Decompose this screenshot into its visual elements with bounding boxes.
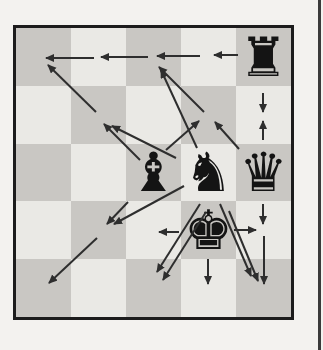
black-knight-piece: ♞ <box>181 144 236 202</box>
black-bishop-piece: ♝ <box>126 144 181 202</box>
pieces-layer: ♜♝♞♛♚ <box>16 28 291 317</box>
black-rook-piece: ♜ <box>236 28 291 86</box>
page-edge-line <box>318 0 321 350</box>
black-king-piece: ♚ <box>181 201 236 259</box>
black-queen-piece: ♛ <box>236 144 291 202</box>
scanned-book-page: ♜♝♞♛♚ <box>0 0 323 350</box>
chess-board: ♜♝♞♛♚ <box>13 25 294 320</box>
